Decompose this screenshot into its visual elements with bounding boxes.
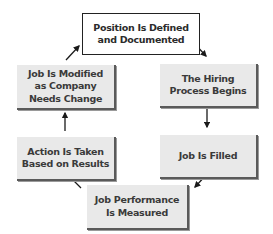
node-label-line: as Company: [28, 80, 103, 93]
node-action-taken: Action Is Taken Based on Results: [17, 137, 116, 181]
node-label-line: Job Is Modified: [28, 68, 103, 81]
node-label-line: and Documented: [93, 34, 188, 47]
node-position-defined: Position Is Defined and Documented: [82, 13, 200, 55]
node-label-line: Based on Results: [22, 158, 109, 171]
node-label-line: Action Is Taken: [22, 146, 109, 159]
node-performance-measured: Job Performance Is Measured: [87, 185, 189, 230]
node-label-line: Job Performance: [95, 194, 179, 207]
node-job-filled: Job Is Filled: [160, 135, 258, 179]
node-label-line: The Hiring: [170, 73, 247, 86]
arrow-modified-to-defined: [66, 46, 79, 60]
node-label-line: Job Is Filled: [179, 150, 237, 163]
node-job-modified: Job Is Modified as Company Needs Change: [17, 65, 116, 110]
node-label-line: Is Measured: [95, 207, 179, 220]
node-hiring-process: The Hiring Process Begins: [160, 64, 258, 108]
node-label-line: Position Is Defined: [93, 22, 188, 35]
node-label-line: Needs Change: [28, 93, 103, 106]
node-label-line: Process Begins: [170, 85, 247, 98]
